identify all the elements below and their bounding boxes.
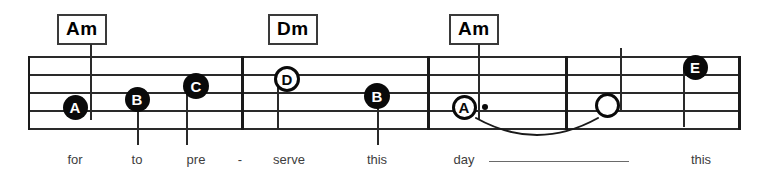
note-stem-6 — [478, 44, 480, 120]
lyric-syllable: - — [238, 152, 242, 167]
notehead-a-1[interactable]: A — [63, 95, 88, 120]
note-letter: B — [132, 91, 143, 106]
notehead-open-7[interactable] — [595, 93, 620, 118]
staff-right-edge — [738, 56, 741, 130]
staff-line-1 — [28, 56, 740, 58]
note-letter: E — [690, 59, 700, 74]
note-letter: D — [282, 71, 293, 86]
lyric-extender-day — [489, 161, 629, 162]
note-letter: C — [191, 78, 202, 93]
music-notation-sheet: AmDmAm ABCDBAE fortopre-servethisdaythis — [0, 0, 783, 180]
notehead-b-2[interactable]: B — [125, 87, 150, 112]
chord-symbol-am-3[interactable]: Am — [449, 14, 499, 45]
note-stem-1 — [90, 44, 92, 120]
chord-symbol-am-1[interactable]: Am — [57, 14, 107, 45]
note-letter: B — [372, 88, 383, 103]
augmentation-dot-6 — [482, 104, 488, 110]
notehead-e-8[interactable]: E — [683, 55, 708, 80]
notehead-a-6[interactable]: A — [452, 95, 477, 120]
staff-line-2 — [28, 74, 740, 76]
barline-2 — [427, 56, 430, 130]
note-stem-7 — [620, 48, 622, 112]
notehead-b-5[interactable]: B — [364, 83, 390, 109]
note-letter: A — [70, 99, 81, 114]
lyric-syllable: this — [367, 152, 387, 167]
notehead-d-4[interactable]: D — [274, 66, 300, 92]
tie-a-to-open — [470, 112, 604, 141]
notehead-c-3[interactable]: C — [183, 73, 209, 99]
lyric-syllable: pre — [187, 152, 206, 167]
lyric-syllable: serve — [273, 152, 305, 167]
lyric-syllable: for — [67, 152, 82, 167]
barline-3 — [565, 56, 568, 130]
barline-1 — [241, 56, 244, 130]
lyric-syllable: this — [691, 152, 711, 167]
lyric-syllable: day — [454, 152, 475, 167]
note-letter: A — [459, 99, 470, 114]
staff-line-5 — [28, 128, 740, 130]
note-stem-8 — [683, 67, 685, 127]
staff-left-edge — [28, 56, 30, 130]
lyric-syllable: to — [132, 152, 143, 167]
chord-symbol-dm-2[interactable]: Dm — [268, 14, 318, 45]
